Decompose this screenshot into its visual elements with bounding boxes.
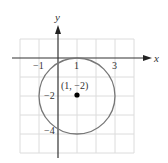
y-tick-neg4: −4	[44, 125, 55, 136]
x-axis-arrow-icon	[143, 55, 152, 61]
coordinate-diagram: x y −1 1 3 −2 −4 (1, −2)	[0, 0, 168, 163]
y-axis-arrow-icon	[55, 25, 61, 34]
y-axis	[55, 25, 61, 158]
center-point	[74, 92, 79, 97]
center-point-label: (1, −2)	[61, 80, 88, 92]
x-tick-neg1: −1	[33, 60, 44, 71]
x-tick-1: 1	[74, 60, 79, 71]
y-axis-label: y	[54, 11, 60, 23]
x-tick-3: 3	[112, 60, 117, 71]
y-tick-neg2: −2	[44, 90, 55, 101]
x-axis-label: x	[153, 52, 159, 64]
